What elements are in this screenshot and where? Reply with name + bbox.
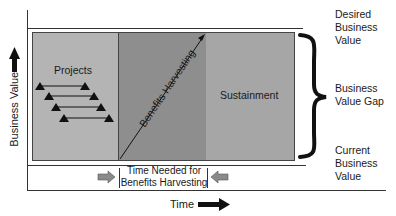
desired-business-value-label: Desired Business Value	[335, 8, 395, 47]
left-pointer-arrow-icon	[211, 171, 228, 183]
brace-icon	[300, 35, 326, 157]
time-needed-label: Time Needed for Benefits Harvesting	[120, 165, 208, 189]
up-arrow-icon	[9, 47, 20, 72]
time-needed-line2: Benefits Harvesting	[120, 177, 208, 189]
project-bars-icon	[35, 82, 114, 122]
time-needed-line1: Time Needed for	[120, 165, 208, 177]
y-axis-label: Business Value	[8, 69, 21, 149]
current-business-value-label: Current Business Value	[335, 144, 395, 183]
x-axis-label: Time	[170, 198, 194, 211]
business-value-gap-label: Business Value Gap	[335, 82, 390, 108]
right-arrow-icon	[198, 198, 230, 211]
right-pointer-arrow-icon	[98, 171, 115, 183]
